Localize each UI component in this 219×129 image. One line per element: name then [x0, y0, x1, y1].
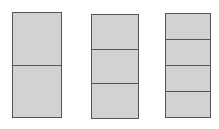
bar-2 [91, 14, 139, 119]
bar-2-segment-2 [92, 50, 138, 85]
fraction-bars-figure [0, 0, 219, 129]
bar-1 [12, 12, 62, 118]
bar-3 [165, 13, 211, 118]
bar-2-segment-1 [92, 15, 138, 50]
bar-3-segment-4 [166, 92, 210, 117]
bar-2-segment-3 [92, 84, 138, 118]
bar-3-segment-3 [166, 66, 210, 92]
bar-1-segment-1 [13, 13, 61, 66]
bar-1-segment-2 [13, 66, 61, 118]
bar-3-segment-2 [166, 40, 210, 66]
bar-3-segment-1 [166, 14, 210, 40]
